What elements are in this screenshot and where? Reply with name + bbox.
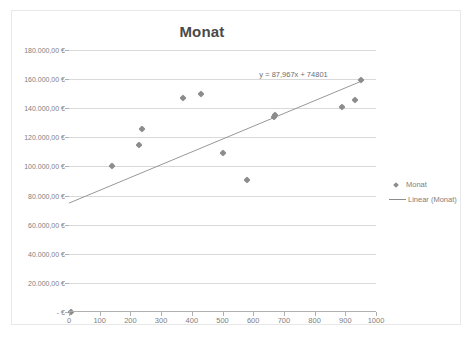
plot-area bbox=[69, 50, 376, 312]
y-axis-tick-label: 120.000,00 € bbox=[24, 134, 65, 141]
y-axis-tick-label: 80.000,00 € bbox=[28, 192, 65, 199]
x-axis-tick-labels: 01002003004005006007008009001000 bbox=[69, 312, 376, 328]
trendline-equation-label: y = 87,967x + 74801 bbox=[259, 70, 327, 79]
x-axis-tick-label: 600 bbox=[247, 316, 260, 325]
y-axis-tick-label: 160.000,00 € bbox=[24, 76, 65, 83]
x-axis-tick-label: 300 bbox=[155, 316, 168, 325]
line-marker-icon bbox=[389, 199, 406, 200]
x-axis-tick-label: 500 bbox=[216, 316, 229, 325]
legend-label-monat: Monat bbox=[406, 180, 427, 189]
legend-item-monat[interactable]: Monat bbox=[389, 177, 473, 192]
x-axis-tick-label: 700 bbox=[278, 316, 291, 325]
legend-label-linear-monat: Linear (Monat) bbox=[408, 195, 457, 204]
y-axis-tick-labels: - €20.000,00 €40.000,00 €60.000,00 €80.0… bbox=[12, 50, 65, 312]
y-axis-tick-label: 180.000,00 € bbox=[24, 47, 65, 54]
y-axis-tick-label: 140.000,00 € bbox=[24, 105, 65, 112]
y-axis-tick-label: - € bbox=[57, 309, 65, 316]
y-axis-tick-label: 20.000,00 € bbox=[28, 279, 65, 286]
x-axis-tick-label: 0 bbox=[67, 316, 71, 325]
y-axis-tick-label: 60.000,00 € bbox=[28, 221, 65, 228]
diamond-marker-icon bbox=[393, 182, 399, 188]
y-axis-tick-label: 40.000,00 € bbox=[28, 250, 65, 257]
x-axis-tick-label: 200 bbox=[124, 316, 137, 325]
chart-frame: Monat - €20.000,00 €40.000,00 €60.000,00… bbox=[11, 10, 461, 325]
chart-title: Monat bbox=[12, 23, 392, 40]
x-axis-tick-label: 800 bbox=[308, 316, 321, 325]
trendline bbox=[69, 50, 376, 312]
chart-legend: Monat Linear (Monat) bbox=[389, 177, 473, 207]
legend-item-linear-monat[interactable]: Linear (Monat) bbox=[389, 192, 473, 207]
x-axis-tick-label: 100 bbox=[93, 316, 106, 325]
x-axis-tick-label: 1000 bbox=[368, 316, 385, 325]
x-axis-tick-label: 900 bbox=[339, 316, 352, 325]
x-axis-tick-label: 400 bbox=[186, 316, 199, 325]
y-axis-tick-label: 100.000,00 € bbox=[24, 163, 65, 170]
